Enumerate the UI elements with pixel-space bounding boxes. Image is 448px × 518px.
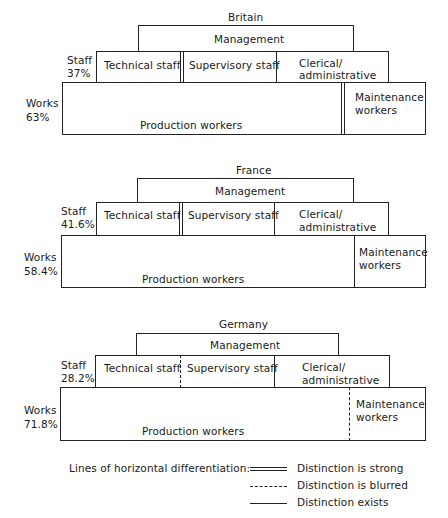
divider-production-maintenance	[354, 235, 355, 288]
production-workers-label: Production workers	[142, 273, 244, 285]
works-label: Works	[24, 404, 57, 416]
production-workers-label: Production workers	[142, 425, 244, 437]
legend-line-strong	[250, 467, 287, 471]
technical-staff-label: Technical staff	[104, 362, 180, 374]
staff-percent: 37%	[67, 67, 91, 79]
management-box: Management	[138, 25, 354, 52]
technical-staff-label: Technical staff	[104, 59, 180, 71]
legend-line-exists	[250, 503, 287, 504]
works-label: Works	[26, 97, 59, 109]
legend-line-blurred	[250, 486, 287, 487]
legend-title: Lines of horizontal differentiation:	[69, 462, 250, 474]
maintenance-label-line2: workers	[356, 411, 398, 423]
supervisory-staff-label: Supervisory staff	[187, 362, 278, 374]
works-row: Production workers Maintenance workers	[61, 235, 426, 288]
divider-production-maintenance	[341, 82, 345, 135]
staff-percent: 28.2%	[61, 372, 95, 384]
maintenance-label-line2: workers	[359, 259, 401, 271]
staff-row: Technical staff Supervisory staff Cleric…	[96, 51, 389, 83]
works-row: Production workers Maintenance workers	[60, 387, 426, 441]
works-percent: 63%	[26, 111, 50, 123]
divider-supervisory-clerical	[276, 51, 277, 83]
staff-percent: 41.6%	[61, 218, 95, 230]
legend-label-blurred: Distinction is blurred	[297, 479, 408, 491]
works-percent: 58.4%	[24, 265, 58, 277]
legend-label-strong: Distinction is strong	[297, 462, 404, 474]
divider-production-maintenance	[349, 387, 350, 441]
clerical-label-line1: Clerical/	[299, 208, 343, 220]
clerical-label-line2: administrative	[299, 69, 376, 81]
management-label: Management	[214, 33, 284, 45]
country-title: Britain	[228, 11, 263, 23]
supervisory-staff-label: Supervisory staff	[188, 209, 279, 221]
legend-label-exists: Distinction exists	[297, 496, 389, 508]
divider-technical-supervisory	[180, 51, 184, 83]
staff-row: Technical staff Supervisory staff Cleric…	[95, 355, 390, 389]
maintenance-label-line1: Maintenance	[356, 398, 425, 410]
maintenance-label-line1: Maintenance	[359, 246, 428, 258]
staff-label: Staff	[61, 359, 86, 371]
maintenance-label-line2: workers	[355, 104, 397, 116]
clerical-label-line1: Clerical/	[299, 57, 343, 69]
divider-supervisory-clerical	[274, 355, 275, 388]
supervisory-staff-label: Supervisory staff	[189, 59, 280, 71]
clerical-label-line2: administrative	[302, 374, 379, 386]
clerical-label-line1: Clerical/	[302, 361, 346, 373]
management-label: Management	[215, 185, 285, 197]
staff-label: Staff	[67, 54, 92, 66]
country-title: Germany	[219, 318, 268, 330]
technical-staff-label: Technical staff	[104, 209, 180, 221]
maintenance-label-line1: Maintenance	[355, 91, 424, 103]
works-row: Production workers Maintenance workers	[62, 82, 426, 135]
divider-technical-supervisory	[180, 355, 181, 388]
management-box: Management	[137, 178, 354, 203]
management-box: Management	[136, 333, 339, 356]
management-label: Management	[210, 339, 280, 351]
staff-label: Staff	[61, 205, 86, 217]
divider-supervisory-clerical	[274, 202, 275, 236]
divider-technical-supervisory	[179, 202, 183, 236]
works-label: Works	[24, 251, 57, 263]
staff-row: Technical staff Supervisory staff Cleric…	[96, 202, 389, 236]
production-workers-label: Production workers	[140, 119, 242, 131]
country-title: France	[236, 164, 272, 176]
works-percent: 71.8%	[24, 418, 58, 430]
clerical-label-line2: administrative	[299, 221, 376, 233]
